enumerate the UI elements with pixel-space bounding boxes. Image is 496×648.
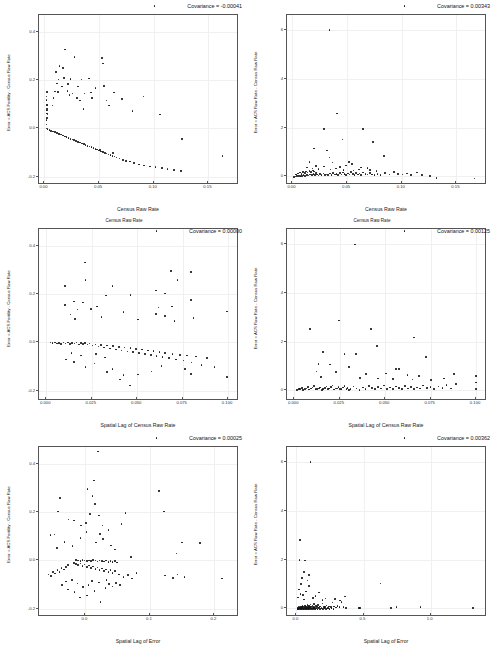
data-point <box>85 366 87 368</box>
y-tick-mark <box>36 79 39 80</box>
data-point <box>87 344 89 346</box>
data-point <box>90 308 92 310</box>
data-point <box>67 83 69 85</box>
y-axis-label-text: Error = ACS Fertility - Census Raw Rate <box>6 270 11 347</box>
data-point <box>112 572 114 574</box>
data-point <box>155 166 157 168</box>
y-tick-label: 4 <box>281 75 283 80</box>
x-tick-label: 0.15 <box>451 184 459 189</box>
data-point <box>50 534 52 536</box>
data-point <box>309 161 311 163</box>
data-point <box>222 155 224 157</box>
data-point <box>101 568 103 570</box>
legend-marker-dot-icon <box>404 230 406 232</box>
y-tick-label: 6 <box>281 458 283 463</box>
scatter-panel-grid: Covariance = -0.000410.000.050.100.150.4… <box>0 0 496 648</box>
data-point <box>50 575 52 577</box>
data-point <box>392 388 394 390</box>
data-point <box>127 351 129 353</box>
y-axis-label: Error = ACS Raw Rate - Census Raw Rate <box>250 0 262 184</box>
data-point <box>98 346 100 348</box>
y-tick-mark <box>36 390 39 391</box>
x-tick-label: 0.05 <box>94 184 102 189</box>
data-point <box>475 375 477 377</box>
y-tick-label: 0.0 <box>29 557 35 562</box>
data-point <box>426 387 428 389</box>
data-point <box>398 368 400 370</box>
data-point <box>319 387 321 389</box>
data-point <box>410 386 412 388</box>
legend-label: Covariance = 0.00343 <box>437 3 490 9</box>
gridline-horizontal <box>39 246 237 247</box>
data-point <box>206 357 208 359</box>
data-point <box>348 161 350 163</box>
y-axis-ticks: 6420 <box>268 446 286 616</box>
data-point <box>65 359 67 361</box>
panel-2: Covariance = 0.003430.000.050.100.156420… <box>248 0 496 216</box>
y-tick-label: 0 <box>281 605 283 610</box>
data-point <box>67 589 69 591</box>
data-point <box>144 353 146 355</box>
data-point <box>170 270 172 272</box>
data-point <box>93 480 95 482</box>
data-point <box>304 172 306 174</box>
data-point <box>130 347 132 349</box>
panel-1: Covariance = -0.000410.000.050.100.150.4… <box>0 0 248 216</box>
gridline-vertical <box>476 229 477 399</box>
data-point <box>121 523 123 525</box>
data-point <box>308 574 310 576</box>
x-axis-label: Spatial Lag of Census Raw Rate <box>286 422 486 428</box>
x-tick-label: 0.0 <box>82 616 88 621</box>
y-tick-label: 6 <box>281 26 283 31</box>
data-point <box>84 93 86 95</box>
data-point <box>179 354 181 356</box>
x-axis-ticks: 0.00.10.2 <box>38 616 238 624</box>
data-point <box>406 173 408 175</box>
y-axis-label: Error = ACS Fertility - Census Raw Rate <box>2 0 14 184</box>
plot-area <box>38 228 238 400</box>
data-point <box>103 85 105 87</box>
gridline-vertical <box>431 229 432 399</box>
data-point <box>52 571 54 573</box>
data-point <box>173 169 175 171</box>
data-point <box>62 67 64 69</box>
data-point <box>344 596 346 598</box>
data-point <box>85 522 87 524</box>
data-point <box>315 172 317 174</box>
y-tick-label: 2 <box>281 556 283 561</box>
data-point <box>132 110 134 112</box>
data-point <box>88 78 90 80</box>
data-point <box>101 57 103 59</box>
y-tick-mark <box>36 559 39 560</box>
panel-title: Census Raw Rate <box>0 218 248 223</box>
legend: Covariance = 0.00000 <box>156 228 243 234</box>
data-point <box>123 311 125 313</box>
data-point <box>133 162 135 164</box>
gridline-horizontal <box>39 391 237 392</box>
data-point <box>84 262 86 264</box>
data-point <box>297 597 299 599</box>
gridline-horizontal <box>287 79 485 80</box>
data-point <box>175 359 177 361</box>
y-tick-mark <box>284 510 287 511</box>
y-tick-mark <box>284 389 287 390</box>
data-point <box>69 94 71 96</box>
x-axis-ticks: 0.0000.0250.0500.0750.100 <box>286 400 486 408</box>
data-point <box>130 556 132 558</box>
data-point <box>108 571 110 573</box>
data-point <box>164 352 166 354</box>
data-point <box>177 279 179 281</box>
data-point <box>59 571 61 573</box>
data-point <box>110 560 112 562</box>
x-tick-label: 0.000 <box>40 400 50 405</box>
data-point <box>450 388 452 390</box>
data-point <box>96 306 98 308</box>
legend: Covariance = 0.00343 <box>404 3 491 9</box>
x-axis-ticks: 0.000.050.100.15 <box>38 184 238 192</box>
x-axis-label: Census Raw Rate <box>286 206 486 212</box>
y-tick-mark <box>284 559 287 560</box>
panel-title: Census Raw Rate <box>248 218 496 223</box>
data-point <box>90 567 92 569</box>
data-point <box>121 350 123 352</box>
x-tick-label: 0.2 <box>211 616 217 621</box>
